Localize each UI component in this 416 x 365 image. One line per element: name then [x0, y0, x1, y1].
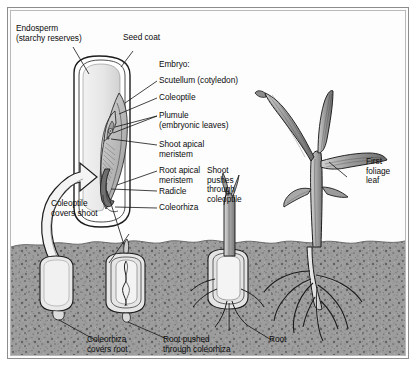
label-coleoptile-covers-shoot: Coleoptile covers shoot	[51, 199, 98, 218]
label-root-apical-meristem: Root apical meristem	[159, 166, 200, 185]
label-radicle: Radicle	[159, 187, 186, 197]
label-first-foliage-leaf: First foliage leaf	[366, 157, 390, 186]
label-scutellum: Scutellum (cotyledon)	[159, 76, 238, 86]
label-shoot-apical-meristem: Shoot apical meristem	[159, 140, 204, 159]
label-seed-coat: Seed coat	[123, 33, 160, 43]
figure-inner-border: Endosperm (starchy reserves) Seed coat E…	[10, 10, 406, 356]
label-embryo: Embryo:	[159, 60, 190, 70]
label-coleorhiza-covers-root: Coleorhiza covers root	[87, 335, 128, 354]
figure-outer-border: Endosperm (starchy reserves) Seed coat E…	[7, 7, 409, 359]
label-coleoptile: Coleoptile	[159, 93, 196, 103]
label-root: Root	[269, 335, 286, 345]
label-coleorhiza: Coleorhiza	[159, 203, 198, 213]
label-shoot-pushes-through-coleoptile: Shoot pushes through coleoptile	[207, 166, 242, 204]
label-root-pushed-through-coleorhiza: Root pushed through coleorhiza	[163, 335, 231, 354]
label-endosperm: Endosperm (starchy reserves)	[16, 24, 82, 43]
label-plumule: Plumule (embryonic leaves)	[159, 111, 228, 130]
germination-diagram: Endosperm (starchy reserves) Seed coat E…	[0, 0, 416, 365]
